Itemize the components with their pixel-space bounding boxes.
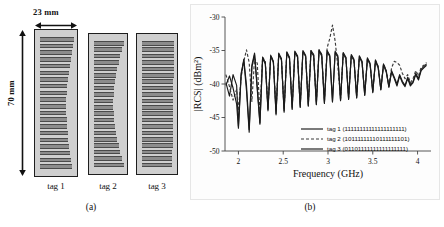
resonator-bar — [94, 47, 122, 52]
resonator-bar — [94, 86, 114, 91]
resonator-bar — [94, 143, 119, 148]
y-tick-label: -45 — [210, 113, 220, 122]
resonator-bar-group-1 — [35, 30, 77, 176]
resonator-bar — [142, 137, 173, 142]
resonator-bar — [40, 164, 72, 169]
resonator-bar — [94, 105, 113, 110]
resonator-bar — [40, 124, 67, 129]
resonator-bar — [142, 54, 174, 59]
y-tick-label: -30 — [210, 13, 220, 22]
x-tick-label: 3 — [326, 157, 330, 166]
resonator-bar — [40, 151, 70, 156]
resonator-bar — [40, 138, 68, 143]
tag-layout-1 — [34, 29, 78, 177]
resonator-bar-group-3 — [137, 34, 177, 174]
resonator-bar — [94, 54, 120, 59]
rcs-frequency-chart: -30-35-40-45-5022.533.54 tag 1 (11111111… — [191, 5, 441, 201]
resonator-bar — [142, 73, 174, 78]
y-tick-label: -50 — [210, 147, 220, 156]
resonator-bar — [142, 79, 173, 84]
resonator-bar — [40, 77, 68, 82]
legend-label-2: tag 2 (10111111110111111101) — [327, 135, 409, 142]
resonator-bar — [94, 60, 119, 65]
resonator-bar — [40, 111, 66, 116]
figure-root: 23 mm 70 mm tag 1 tag 2 tag 3 (a) -30-35 — [0, 0, 444, 227]
x-axis-title: Frequency (GHz) — [293, 168, 363, 180]
resonator-bar — [142, 47, 174, 52]
resonator-bar — [94, 79, 115, 84]
resonator-bar — [40, 44, 73, 49]
resonator-bar — [94, 99, 113, 104]
resonator-bar — [142, 105, 173, 110]
x-tick-label: 2.5 — [279, 157, 289, 166]
resonator-bar — [142, 67, 174, 72]
resonator-bar — [40, 104, 66, 109]
resonator-bar — [94, 163, 124, 168]
resonator-bar — [94, 150, 120, 155]
x-tick-label: 3.5 — [368, 157, 378, 166]
x-tick-label: 4 — [416, 157, 420, 166]
resonator-bar — [40, 71, 69, 76]
resonator-bar — [94, 137, 117, 142]
resonator-bar — [142, 92, 173, 97]
resonator-bar — [40, 84, 67, 89]
resonator-bar — [142, 60, 174, 65]
resonator-bar — [40, 97, 66, 102]
panel-caption-a: (a) — [66, 202, 116, 212]
resonator-bar — [142, 41, 174, 46]
resonator-bar — [40, 131, 68, 136]
resonator-bar — [142, 86, 173, 91]
resonator-bar — [94, 41, 124, 46]
tag-layout-2 — [88, 33, 128, 175]
resonator-bar — [142, 163, 172, 168]
chart-legend: tag 1 (11111111111111111111)tag 2 (10111… — [301, 125, 409, 152]
tag-layout-3 — [136, 33, 178, 175]
resonator-bar — [40, 57, 71, 62]
y-tick-label: -40 — [210, 80, 220, 89]
resonator-bar — [94, 67, 117, 72]
resonator-bar — [40, 144, 69, 149]
resonator-bar — [94, 73, 116, 78]
resonator-bar — [40, 64, 70, 69]
width-dimension-label: 23 mm — [33, 7, 59, 17]
resonator-bar — [40, 91, 67, 96]
height-dimension-label: 70 mm — [6, 70, 16, 116]
resonator-bar-group-2 — [89, 34, 127, 174]
resonator-bar — [40, 50, 72, 55]
rcs-spectrum-panel: -30-35-40-45-5022.533.54 tag 1 (11111111… — [190, 4, 440, 200]
resonator-bar — [40, 117, 67, 122]
resonator-bar — [40, 158, 71, 163]
y-tick-label: -35 — [210, 46, 220, 55]
panel-caption-b: (b) — [285, 202, 335, 212]
resonator-bar — [94, 156, 122, 161]
legend-label-1: tag 1 (11111111111111111111) — [327, 125, 407, 132]
height-dimension-arrow — [18, 30, 27, 176]
x-tick-label: 2 — [237, 157, 241, 166]
tag-label-3: tag 3 — [136, 181, 178, 191]
resonator-bar — [94, 92, 114, 97]
resonator-bar — [142, 131, 173, 136]
resonator-bar — [142, 99, 173, 104]
resonator-bar — [142, 150, 172, 155]
legend-label-3: tag 3 (01101111111111111111) — [327, 145, 408, 152]
resonator-bar — [40, 37, 74, 42]
resonator-bar — [94, 131, 116, 136]
chart-series-group — [226, 25, 427, 132]
tag-geometry-panel: 23 mm 70 mm tag 1 tag 2 tag 3 (a) — [0, 0, 190, 227]
resonator-bar — [142, 143, 173, 148]
y-axis-title: |RCS| (dBm²) — [192, 57, 204, 112]
chart-axes: -30-35-40-45-5022.533.54 — [210, 13, 432, 166]
resonator-bar — [94, 118, 114, 123]
tag-label-2: tag 2 — [88, 181, 128, 191]
resonator-bar — [142, 111, 173, 116]
tag-label-1: tag 1 — [34, 181, 78, 191]
resonator-bar — [94, 124, 115, 129]
resonator-bar — [142, 118, 173, 123]
resonator-bar — [94, 111, 114, 116]
resonator-bar — [142, 156, 172, 161]
resonator-bar — [142, 124, 173, 129]
